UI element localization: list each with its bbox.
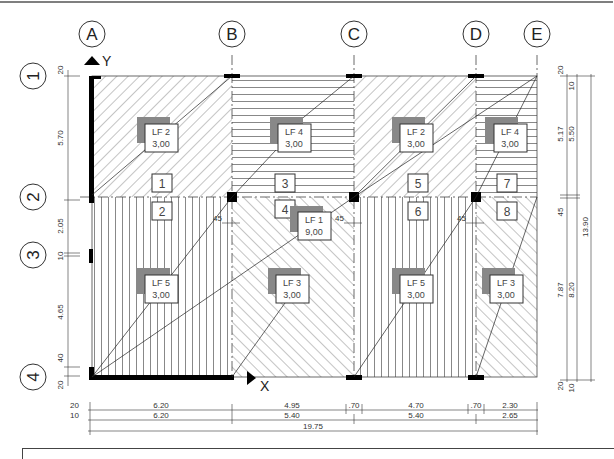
svg-text:B: B: [226, 25, 237, 44]
field-box-6: 6: [408, 202, 428, 220]
svg-text:10: 10: [567, 383, 576, 392]
svg-text:2.65: 2.65: [502, 411, 518, 420]
svg-text:3,00: 3,00: [501, 139, 519, 149]
axis-bubble-c: C: [341, 21, 367, 47]
svg-text:5.40: 5.40: [284, 411, 300, 420]
wall-4-bottom: [89, 375, 234, 380]
svg-text:LF 2: LF 2: [152, 127, 170, 137]
svg-text:5.50: 5.50: [567, 126, 576, 142]
svg-text:3,00: 3,00: [497, 290, 515, 300]
svg-text:E: E: [531, 25, 542, 44]
svg-text:4: 4: [24, 372, 43, 381]
field-box-7: 7: [497, 174, 517, 192]
axis-bubble-b: B: [219, 21, 245, 47]
svg-text:6.20: 6.20: [153, 411, 169, 420]
svg-text:2.30: 2.30: [502, 401, 518, 410]
svg-text:2.05: 2.05: [56, 218, 65, 234]
svg-text:10: 10: [56, 251, 65, 260]
svg-text:LF 2: LF 2: [407, 127, 425, 137]
svg-text:4.65: 4.65: [56, 304, 65, 320]
caption-frame: [22, 448, 614, 459]
x-axis-label: X: [260, 378, 270, 394]
svg-text:4.95: 4.95: [284, 401, 300, 410]
svg-text:3,00: 3,00: [285, 139, 303, 149]
axis-bubble-2: 2: [20, 184, 46, 210]
svg-text:3,00: 3,00: [152, 139, 170, 149]
field-box-2: 2: [152, 202, 172, 220]
svg-text:LF 4: LF 4: [501, 127, 519, 137]
svg-text:10: 10: [567, 81, 576, 90]
svg-text:2: 2: [24, 192, 43, 201]
svg-text:20: 20: [556, 65, 565, 74]
svg-text:45: 45: [213, 214, 222, 223]
column-c4: [346, 375, 362, 380]
field-box-1: 1: [152, 174, 172, 192]
svg-text:C: C: [348, 25, 360, 44]
y-axis-arrow-icon: [84, 56, 100, 65]
svg-text:8: 8: [504, 205, 511, 219]
svg-text:LF 3: LF 3: [283, 278, 301, 288]
svg-text:19.75: 19.75: [303, 422, 324, 431]
svg-text:.70: .70: [470, 401, 482, 410]
axis-bubble-4: 4: [20, 364, 46, 390]
column-d4: [468, 375, 484, 380]
svg-text:3: 3: [282, 177, 289, 191]
svg-text:13.90: 13.90: [581, 216, 590, 237]
svg-text:3: 3: [24, 250, 43, 259]
svg-text:45: 45: [335, 214, 344, 223]
svg-text:LF 5: LF 5: [152, 278, 170, 288]
svg-text:45: 45: [457, 214, 466, 223]
axis-bubble-d: D: [463, 21, 489, 47]
bottom-dimension-chains: 20 6.20 4.95 .70 4.70 .70 2.30 10 6.20 5…: [70, 401, 538, 435]
svg-text:40: 40: [56, 353, 65, 362]
svg-text:10: 10: [70, 411, 79, 420]
svg-text:3,00: 3,00: [407, 290, 425, 300]
axis-bubble-e: E: [524, 21, 550, 47]
svg-text:8.20: 8.20: [567, 282, 576, 298]
svg-text:4.70: 4.70: [408, 401, 424, 410]
field-box-8: 8: [497, 202, 517, 220]
svg-text:5.70: 5.70: [56, 130, 65, 146]
svg-text:3,00: 3,00: [407, 139, 425, 149]
axis-bubble-3: 3: [20, 242, 46, 268]
svg-text:LF 4: LF 4: [285, 127, 303, 137]
svg-text:5: 5: [415, 177, 422, 191]
wall-a-stub: [89, 249, 93, 263]
axis-bubble-a: A: [79, 21, 105, 47]
svg-text:20: 20: [56, 65, 65, 74]
svg-text:LF 5: LF 5: [407, 278, 425, 288]
right-dimension-chains: 20 5.17 45 7.87 20 10 5.50 8.20 10 13.90: [556, 65, 595, 392]
field-box-3: 3: [275, 174, 295, 192]
field-box-5: 5: [408, 174, 428, 192]
svg-text:D: D: [470, 25, 482, 44]
svg-text:6.20: 6.20: [153, 401, 169, 410]
svg-text:3,00: 3,00: [283, 290, 301, 300]
svg-text:7: 7: [504, 177, 511, 191]
svg-text:7.87: 7.87: [556, 282, 565, 298]
wall-a-upper: [89, 76, 94, 203]
axis-bubble-1: 1: [20, 63, 46, 89]
svg-text:LF 3: LF 3: [497, 278, 515, 288]
svg-text:LF 1: LF 1: [305, 215, 323, 225]
svg-text:5.17: 5.17: [556, 126, 565, 142]
svg-text:.70: .70: [348, 401, 360, 410]
svg-text:4: 4: [282, 203, 289, 217]
svg-text:2: 2: [159, 205, 166, 219]
svg-text:A: A: [86, 25, 98, 44]
svg-text:6: 6: [415, 205, 422, 219]
svg-text:5.40: 5.40: [408, 411, 424, 420]
y-axis-label: Y: [102, 53, 112, 69]
svg-text:20: 20: [70, 401, 79, 410]
svg-text:45: 45: [556, 207, 565, 216]
svg-text:3,00: 3,00: [152, 290, 170, 300]
svg-text:1: 1: [24, 71, 43, 80]
svg-text:20: 20: [56, 380, 65, 389]
left-dimension-chain: 20 5.70 2.05 10 4.65 40 20: [56, 65, 80, 389]
svg-text:20: 20: [556, 381, 565, 390]
svg-text:1: 1: [159, 177, 166, 191]
svg-text:9,00: 9,00: [305, 227, 323, 237]
